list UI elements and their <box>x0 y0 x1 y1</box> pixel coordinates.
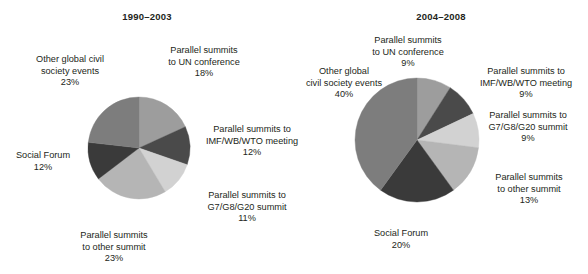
pie-label-line: Parallel summits to <box>193 190 301 202</box>
pie-label-line: G7/G8/G20 summit <box>193 202 301 214</box>
pie-label-percent: 9% <box>356 58 460 70</box>
pie-label-line: to other summit <box>58 242 170 254</box>
pie-label-other-global-civil-society-events-1990-2003: Other global civil society events 23% <box>18 54 122 89</box>
pie-label-percent: 23% <box>58 253 170 265</box>
pie-label-line: to other summit <box>476 184 582 196</box>
pie-slice-other_global_civil_society <box>88 97 139 148</box>
pie-chart-1990-2003 <box>88 97 190 199</box>
pie-label-social-forum-1990-2003: Social Forum 12% <box>4 150 82 173</box>
pie-label-percent: 12% <box>196 147 308 159</box>
pie-label-percent: 40% <box>288 89 400 101</box>
pie-label-percent: 12% <box>4 162 82 174</box>
pie-label-social-forum-2004-2008: Social Forum 20% <box>356 228 446 251</box>
pie-label-line: society events <box>18 66 122 78</box>
pie-label-percent: 20% <box>356 240 446 252</box>
pie-label-g7-g8-g20-1990-2003: Parallel summits to G7/G8/G20 summit 11% <box>193 190 301 225</box>
pie-label-line: civil society events <box>288 78 400 90</box>
pie-label-percent: 23% <box>18 77 122 89</box>
pie-label-other-summit-2004-2008: Parallel summits to other summit 13% <box>476 172 582 207</box>
pie-label-g7-g8-g20-2004-2008: Parallel summits to G7/G8/G20 summit 9% <box>474 110 582 145</box>
pie-label-percent: 13% <box>476 195 582 207</box>
pie-label-line: to UN conference <box>152 57 256 69</box>
chart-panel-2004-2008: 2004–2008 Other global civil society eve… <box>294 0 588 274</box>
pie-label-line: to UN conference <box>356 47 460 59</box>
pie-label-line: IMF/WB/WTO meeting <box>469 78 583 90</box>
pie-label-line: Social Forum <box>4 150 82 162</box>
pie-label-percent: 9% <box>474 133 582 145</box>
pie-label-line: IMF/WB/WTO meeting <box>196 136 308 148</box>
pie-chart-figure: 1990–2003 Other global civil society eve… <box>0 0 588 274</box>
pie-label-percent: 9% <box>469 89 583 101</box>
pie-label-percent: 11% <box>193 213 301 225</box>
pie-label-line: Parallel summits to <box>469 66 583 78</box>
pie-label-line: Other global civil <box>18 54 122 66</box>
pie-label-line: Social Forum <box>356 228 446 240</box>
pie-label-un-conference-1990-2003: Parallel summits to UN conference 18% <box>152 45 256 80</box>
chart-panel-1990-2003: 1990–2003 Other global civil society eve… <box>0 0 294 274</box>
pie-label-imf-wb-wto-1990-2003: Parallel summits to IMF/WB/WTO meeting 1… <box>196 124 308 159</box>
pie-label-line: Parallel summits <box>152 45 256 57</box>
pie-label-line: G7/G8/G20 summit <box>474 122 582 134</box>
pie-label-imf-wb-wto-2004-2008: Parallel summits to IMF/WB/WTO meeting 9… <box>469 66 583 101</box>
pie-label-line: Parallel summits <box>356 35 460 47</box>
pie-label-other-global-civil-society-events-2004-2008: Other global civil society events 40% <box>288 66 400 101</box>
pie-label-un-conference-2004-2008: Parallel summits to UN conference 9% <box>356 35 460 70</box>
pie-label-line: Parallel summits to <box>474 110 582 122</box>
chart-title-1990-2003: 1990–2003 <box>0 11 294 22</box>
chart-title-2004-2008: 2004–2008 <box>294 11 588 22</box>
pie-label-percent: 18% <box>152 68 256 80</box>
pie-label-other-summit-1990-2003: Parallel summits to other summit 23% <box>58 230 170 265</box>
pie-label-line: Parallel summits to <box>196 124 308 136</box>
pie-label-line: Parallel summits <box>476 172 582 184</box>
pie-label-line: Parallel summits <box>58 230 170 242</box>
